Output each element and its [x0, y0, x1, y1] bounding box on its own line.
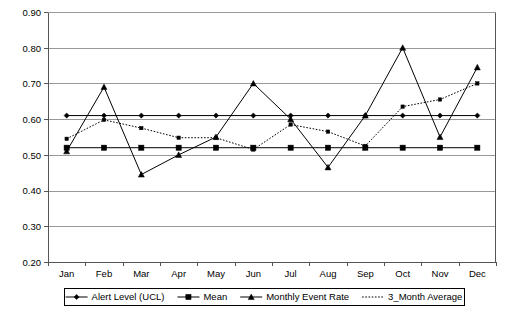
marker-small-square — [401, 105, 404, 108]
marker-square — [213, 145, 218, 150]
series-monthly-event-rate — [64, 45, 481, 177]
marker-diamond — [213, 113, 218, 118]
marker-small-square — [289, 123, 292, 126]
marker-triangle — [176, 152, 182, 158]
y-tick-label: 0.30 — [23, 221, 42, 232]
marker-square — [288, 145, 293, 150]
gridlines — [48, 13, 496, 263]
legend-label: Mean — [203, 291, 227, 302]
marker-diamond — [101, 113, 106, 118]
marker-square — [139, 145, 144, 150]
marker-square — [475, 145, 480, 150]
chart-container: 0.900.800.700.600.500.400.300.20JanFebMa… — [0, 0, 507, 314]
marker-triangle — [474, 64, 480, 70]
y-tick-label: 0.50 — [23, 150, 42, 161]
marker-triangle — [138, 172, 144, 178]
marker-diamond — [139, 113, 144, 118]
legend-label: 3_Month Average — [388, 291, 462, 302]
y-tick-label: 0.20 — [23, 257, 42, 268]
series-alert-level-ucl — [64, 113, 480, 118]
marker-diamond — [475, 113, 480, 118]
marker-small-square — [102, 118, 105, 121]
marker-diamond — [64, 113, 69, 118]
legend-label: Monthly Event Rate — [266, 291, 349, 302]
marker-square — [325, 145, 330, 150]
marker-triangle — [437, 134, 443, 140]
axes — [48, 12, 496, 263]
x-tick-label: Feb — [96, 268, 112, 279]
marker-small-square — [326, 130, 329, 133]
marker-square — [437, 145, 442, 150]
y-tick-label: 0.70 — [23, 78, 42, 89]
x-tick-label: Oct — [395, 268, 410, 279]
marker-triangle — [400, 45, 406, 51]
marker-diamond — [400, 113, 405, 118]
marker-square — [101, 145, 106, 150]
marker-small-square — [214, 136, 217, 139]
x-tick-label: May — [207, 268, 225, 279]
marker-square — [186, 294, 191, 299]
marker-small-square — [438, 98, 441, 101]
marker-small-square — [364, 144, 367, 147]
chart-legend: Alert Level (UCL)MeanMonthly Event Rate3… — [65, 289, 465, 306]
x-axis-ticks: JanFebMarAprMayJunJulAugSepOctNovDec — [49, 262, 497, 279]
series-mean — [64, 145, 480, 150]
marker-small-square — [476, 82, 479, 85]
marker-square — [176, 145, 181, 150]
legend-label: Alert Level (UCL) — [92, 291, 165, 302]
y-tick-label: 0.90 — [23, 7, 42, 18]
x-tick-label: Mar — [133, 268, 149, 279]
marker-square — [400, 145, 405, 150]
x-tick-label: Dec — [469, 268, 486, 279]
y-tick-label: 0.80 — [23, 43, 42, 54]
line-chart: 0.900.800.700.600.500.400.300.20JanFebMa… — [0, 0, 507, 314]
x-tick-label: Apr — [171, 268, 186, 279]
marker-small-square — [65, 137, 68, 140]
marker-small-square — [140, 126, 143, 129]
x-tick-label: Jun — [246, 268, 261, 279]
marker-diamond — [325, 113, 330, 118]
marker-small-square — [177, 136, 180, 139]
x-tick-label: Sep — [357, 268, 374, 279]
marker-small-square — [252, 148, 255, 151]
x-tick-label: Jan — [59, 268, 74, 279]
marker-diamond — [176, 113, 181, 118]
marker-diamond — [437, 113, 442, 118]
marker-diamond — [251, 113, 256, 118]
x-tick-label: Jul — [285, 268, 297, 279]
marker-triangle — [250, 80, 256, 86]
marker-triangle — [101, 84, 107, 90]
y-axis-ticks: 0.900.800.700.600.500.400.300.20 — [23, 7, 49, 268]
series-path — [67, 83, 478, 149]
x-tick-label: Aug — [320, 268, 337, 279]
y-tick-label: 0.60 — [23, 114, 42, 125]
y-tick-label: 0.40 — [23, 185, 42, 196]
x-tick-label: Nov — [432, 268, 449, 279]
